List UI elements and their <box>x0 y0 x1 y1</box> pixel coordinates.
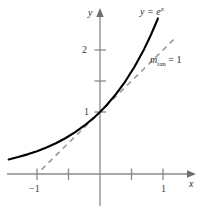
tangent-slope-equals: = <box>166 54 177 65</box>
x-axis-label: x <box>189 179 193 189</box>
curve-equation-exponent: x <box>161 5 164 13</box>
tangent-slope-value: 1 <box>176 54 181 65</box>
y-axis-arrowhead <box>96 8 103 17</box>
x-tick-label-minus-1: −1 <box>29 184 40 194</box>
x-axis-group <box>7 169 196 181</box>
x-tick-label-1: 1 <box>161 184 166 194</box>
curve-equation-label: y = ex <box>140 6 164 17</box>
curve-equation-equals: = <box>144 6 156 17</box>
exponential-curve <box>9 18 158 159</box>
tangent-slope-subscript: tan <box>157 60 166 68</box>
y-tick-label-2: 2 <box>82 45 87 55</box>
tangent-slope-label: mtan = 1 <box>150 55 181 68</box>
y-axis-label: y <box>88 8 92 18</box>
x-axis-arrowhead <box>187 170 196 177</box>
exponential-function-tangent-line-figure: 1 2 −1 1 y x y = ex mtan = 1 <box>0 0 203 216</box>
y-tick-label-1: 1 <box>84 107 89 117</box>
